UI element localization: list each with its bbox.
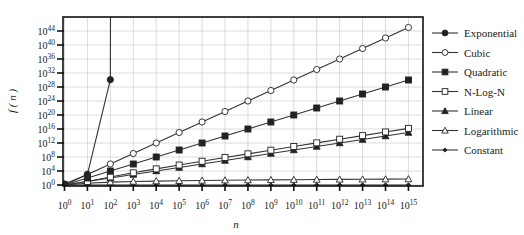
square-marker-icon: [442, 69, 448, 75]
square-marker-icon: [222, 155, 228, 161]
chart-canvas: 1001011021031041051061071081091010101110…: [0, 0, 524, 235]
square-marker-icon: [268, 119, 274, 125]
y-tick-label: 108: [41, 150, 55, 163]
square-marker-icon: [130, 170, 136, 176]
square-marker-icon: [405, 77, 411, 83]
x-tick-label: 107: [218, 198, 232, 211]
circle-marker-icon: [314, 66, 320, 72]
square-marker-icon: [442, 89, 448, 95]
circle-marker-icon: [291, 77, 297, 83]
series-lines: [61, 0, 412, 188]
legend-item-cubic: Cubic: [432, 47, 490, 59]
legend-label: Constant: [464, 144, 503, 156]
circle-marker-icon: [442, 50, 448, 56]
x-tick-label: 108: [241, 198, 255, 211]
y-tick-label: 1012: [38, 136, 56, 149]
x-tick-label: 1015: [400, 198, 418, 211]
y-axis-label: f ( n ): [6, 89, 19, 113]
x-tick-label: 104: [149, 198, 163, 211]
x-tick-label: 102: [103, 198, 117, 211]
legend-item-constant: Constant: [432, 144, 503, 156]
series-line: [65, 179, 409, 185]
circle-marker-icon: [382, 35, 388, 41]
circle-marker-icon: [245, 98, 251, 104]
x-tick-label: 105: [172, 198, 186, 211]
square-marker-icon: [291, 144, 297, 150]
x-tick-label: 101: [81, 198, 95, 211]
square-marker-icon: [360, 133, 366, 139]
square-marker-icon: [176, 162, 182, 168]
legend-item-n-log-n: N-Log-N: [432, 86, 505, 98]
circle-marker-icon: [442, 30, 448, 36]
square-marker-icon: [337, 136, 343, 142]
square-marker-icon: [199, 140, 205, 146]
legend-label: Cubic: [464, 47, 490, 59]
legend: ExponentialCubicQuadraticN-Log-NLinearLo…: [432, 27, 518, 156]
complexity-growth-chart: 1001011021031041051061071081091010101110…: [0, 0, 524, 235]
y-tick-label: 104: [41, 164, 55, 177]
x-tick-label: 109: [264, 198, 278, 211]
y-tick-label: 1028: [38, 80, 56, 93]
square-marker-icon: [153, 154, 159, 160]
square-marker-icon: [383, 129, 389, 135]
x-axis-label: n: [233, 218, 239, 230]
circle-marker-icon: [337, 56, 343, 62]
legend-item-logarithmic: Logarithmic: [432, 125, 518, 137]
square-marker-icon: [268, 147, 274, 153]
series-cubic: [61, 24, 411, 188]
x-tick-label: 1012: [331, 198, 349, 211]
circle-marker-icon: [107, 77, 113, 83]
square-marker-icon: [314, 140, 320, 146]
square-marker-icon: [199, 158, 205, 164]
circle-marker-icon: [107, 161, 113, 167]
y-tick-label: 1036: [38, 52, 56, 65]
circle-marker-icon: [199, 119, 205, 125]
x-tick-label: 100: [58, 198, 72, 211]
legend-label: N-Log-N: [464, 86, 505, 98]
y-tick-label: 1032: [38, 66, 56, 79]
x-tick-label: 106: [195, 198, 209, 211]
series-quadratic: [62, 77, 412, 188]
square-marker-icon: [314, 105, 320, 111]
legend-item-quadratic: Quadratic: [432, 66, 507, 78]
square-marker-icon: [107, 174, 113, 180]
circle-marker-icon: [84, 171, 90, 177]
y-tick-label: 1044: [38, 24, 56, 37]
square-marker-icon: [176, 147, 182, 153]
circle-marker-icon: [268, 87, 274, 93]
diamond-marker-icon: [443, 148, 447, 152]
square-marker-icon: [245, 126, 251, 132]
series-line: [65, 28, 409, 186]
square-marker-icon: [383, 84, 389, 90]
legend-item-exponential: Exponential: [432, 27, 517, 39]
x-tick-label: 1014: [377, 198, 395, 211]
square-marker-icon: [107, 168, 113, 174]
circle-marker-icon: [405, 24, 411, 30]
legend-item-linear: Linear: [432, 105, 493, 117]
circle-marker-icon: [153, 140, 159, 146]
series-line: [65, 133, 409, 186]
x-tick-label: 1011: [308, 198, 325, 211]
y-tick-label: 1040: [38, 38, 56, 51]
circle-marker-icon: [130, 150, 136, 156]
square-marker-icon: [291, 112, 297, 118]
y-tick-label: 1024: [38, 94, 56, 107]
square-marker-icon: [222, 133, 228, 139]
square-marker-icon: [360, 91, 366, 97]
square-marker-icon: [337, 98, 343, 104]
square-marker-icon: [130, 161, 136, 167]
x-tick-label: 1010: [285, 198, 303, 211]
y-tick-label: 1020: [38, 108, 56, 121]
x-tick-label: 103: [126, 198, 140, 211]
circle-marker-icon: [359, 45, 365, 51]
legend-label: Quadratic: [464, 66, 507, 78]
square-marker-icon: [245, 151, 251, 157]
y-tick-label: 100: [41, 178, 55, 191]
circle-marker-icon: [222, 108, 228, 114]
square-marker-icon: [153, 166, 159, 172]
series-line: [65, 80, 409, 185]
square-marker-icon: [405, 125, 411, 131]
y-tick-label: 1016: [38, 122, 56, 135]
legend-label: Exponential: [464, 27, 517, 39]
legend-label: Logarithmic: [464, 125, 518, 137]
